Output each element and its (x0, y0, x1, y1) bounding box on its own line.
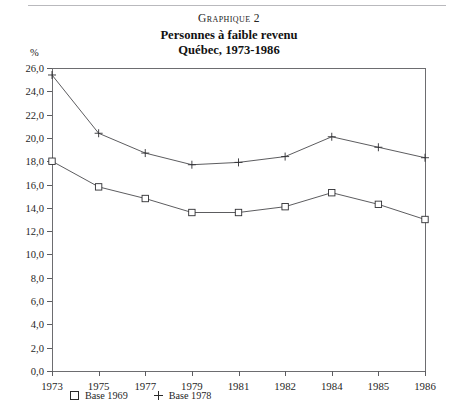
data-point-plus-marker (374, 143, 382, 151)
x-axis-tick-label: 1981 (228, 380, 250, 392)
page-top-rule (28, 5, 446, 6)
y-axis-tick-label: 0,0 (31, 366, 44, 377)
x-axis-tick-label: 1973 (41, 380, 63, 392)
figure-page: Graphique 2 Personnes à faible revenu Qu… (0, 0, 458, 411)
data-point-plus-marker (421, 154, 429, 162)
figure-label: Graphique 2 (0, 12, 458, 24)
x-axis-tick-label: 1986 (414, 380, 436, 392)
data-point-plus-marker (141, 149, 149, 157)
y-axis-tick-label: 8,0 (31, 272, 44, 283)
data-point-square-marker (189, 209, 195, 215)
y-axis-unit-label: % (30, 47, 39, 58)
data-point-plus-marker (188, 161, 196, 169)
data-point-square-marker (422, 216, 428, 222)
legend-entry-base-1969: Base 1969 (70, 390, 128, 401)
data-point-square-marker (375, 201, 381, 207)
x-axis-tick-label: 1982 (274, 380, 296, 392)
y-axis-tick-label: 4,0 (31, 319, 44, 330)
chart-legend: Base 1969 Base 1978 (70, 390, 211, 401)
plus-marker-icon (154, 391, 163, 400)
y-axis-tick-label: 14,0 (25, 202, 44, 213)
y-axis-tick-label: 6,0 (31, 296, 44, 307)
data-point-square-marker (282, 203, 288, 209)
y-axis-tick-label: 2,0 (31, 342, 44, 353)
y-axis-tick-label: 24,0 (25, 86, 44, 97)
data-point-plus-marker (328, 133, 336, 141)
square-marker-icon (70, 391, 79, 400)
series-plot (52, 68, 426, 372)
legend-label-base-1969: Base 1969 (85, 390, 128, 401)
y-axis-tick-label: 26,0 (25, 63, 44, 74)
figure-title: Personnes à faible revenu Québec, 1973-1… (0, 28, 458, 58)
data-point-square-marker (329, 190, 335, 196)
data-point-square-marker (95, 184, 101, 190)
data-point-square-marker (142, 195, 148, 201)
x-axis-tick-label: 1984 (321, 380, 343, 392)
y-axis-tick-label: 10,0 (25, 249, 44, 260)
data-point-plus-marker (235, 158, 243, 166)
legend-entry-base-1978: Base 1978 (154, 390, 212, 401)
series-line-base-1978 (52, 75, 425, 165)
y-axis-tick-label: 12,0 (25, 226, 44, 237)
y-axis-tick-label: 20,0 (25, 132, 44, 143)
y-axis-tick-label: 22,0 (25, 109, 44, 120)
data-point-square-marker (49, 158, 55, 164)
legend-label-base-1978: Base 1978 (169, 390, 212, 401)
figure-title-line2: Québec, 1973-1986 (0, 43, 458, 58)
data-point-plus-marker (281, 153, 289, 161)
data-point-square-marker (235, 209, 241, 215)
plot-area: 0,02,04,06,08,010,012,014,016,018,020,02… (52, 68, 426, 372)
y-axis-tick-label: 16,0 (25, 179, 44, 190)
y-axis-tick-label: 18,0 (25, 156, 44, 167)
figure-title-line1: Personnes à faible revenu (160, 28, 297, 42)
x-axis-tick-label: 1985 (368, 380, 390, 392)
